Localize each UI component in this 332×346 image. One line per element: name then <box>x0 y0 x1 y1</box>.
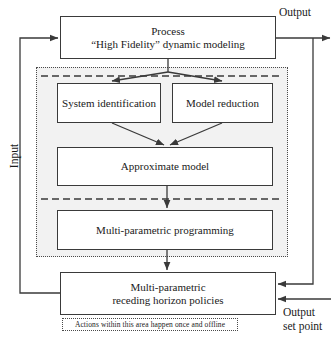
label-input: Input <box>8 133 20 179</box>
box-model-reduction[interactable]: Model reduction <box>172 83 273 123</box>
label-output-set-point: Output set point <box>283 306 322 334</box>
box-multi-parametric-programming-label: Multi-parametric programming <box>96 224 234 237</box>
box-approximate-model[interactable]: Approximate model <box>57 147 273 186</box>
box-process-text: Process “High Fidelity” dynamic modeling <box>91 25 245 51</box>
box-system-identification-label: System identification <box>62 97 156 110</box>
box-multi-parametric-programming[interactable]: Multi-parametric programming <box>57 210 273 250</box>
box-system-identification[interactable]: System identification <box>57 83 161 123</box>
arrow-sysid-to-approx <box>112 123 164 145</box>
box-model-reduction-label: Model reduction <box>186 97 259 110</box>
arrow-modelred-to-approx <box>170 123 222 145</box>
box-approximate-model-label: Approximate model <box>121 160 209 173</box>
box-process[interactable]: Process “High Fidelity” dynamic modeling <box>60 16 276 59</box>
box-policies-text: Multi-parametric receding horizon polici… <box>112 281 223 307</box>
diagram-canvas: Process “High Fidelity” dynamic modeling… <box>0 0 332 346</box>
box-multi-parametric-receding-horizon-policies[interactable]: Multi-parametric receding horizon polici… <box>60 272 276 315</box>
label-output-top: Output <box>279 6 311 18</box>
output-feedback-line <box>278 38 313 284</box>
offline-caption: Actions within this area happen once and… <box>62 318 238 331</box>
